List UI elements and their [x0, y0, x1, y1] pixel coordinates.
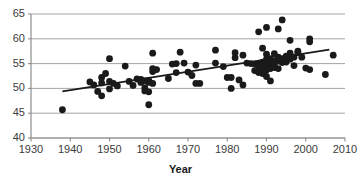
- scatter-chart: 656055504540 193019401950196019701980199…: [0, 0, 361, 184]
- x-tick-label-2010: 2010: [328, 144, 361, 155]
- data-point: [149, 80, 156, 87]
- data-point: [59, 106, 66, 113]
- x-tick-label-1970: 1970: [171, 144, 205, 155]
- data-point: [153, 66, 160, 73]
- data-point: [240, 82, 247, 89]
- data-point: [177, 49, 184, 56]
- gridlines: [31, 14, 345, 138]
- data-point: [306, 38, 313, 45]
- data-point: [165, 75, 172, 82]
- data-point: [173, 60, 180, 67]
- data-point: [106, 86, 113, 93]
- data-point: [196, 80, 203, 87]
- y-tick-label-40: 40: [3, 132, 25, 143]
- x-tick-label-1940: 1940: [53, 144, 87, 155]
- x-tick-label-1960: 1960: [132, 144, 166, 155]
- data-point: [192, 62, 199, 69]
- data-point: [102, 70, 109, 77]
- data-point: [259, 45, 266, 52]
- data-points: [59, 17, 337, 114]
- data-point: [240, 52, 247, 59]
- data-point: [145, 101, 152, 108]
- data-point: [122, 63, 129, 70]
- x-tick-label-2000: 2000: [289, 144, 323, 155]
- plot-canvas: [0, 0, 361, 184]
- data-point: [145, 88, 152, 95]
- data-point: [189, 72, 196, 79]
- data-point: [106, 55, 113, 62]
- y-tick-label-55: 55: [3, 58, 25, 69]
- y-tick-label-50: 50: [3, 82, 25, 93]
- data-point: [228, 85, 235, 92]
- data-point: [228, 74, 235, 81]
- data-point: [267, 78, 274, 85]
- data-point: [291, 62, 298, 69]
- data-point: [181, 60, 188, 67]
- axis-ticks: [28, 14, 345, 142]
- x-tick-label-1990: 1990: [250, 144, 284, 155]
- data-point: [330, 52, 337, 59]
- y-tick-label-60: 60: [3, 33, 25, 44]
- data-point: [263, 24, 270, 31]
- data-point: [232, 54, 239, 61]
- data-point: [279, 17, 286, 24]
- data-point: [255, 28, 262, 35]
- y-tick-label-65: 65: [3, 8, 25, 19]
- data-point: [130, 82, 137, 89]
- x-tick-label-1950: 1950: [93, 144, 127, 155]
- data-point: [275, 65, 282, 72]
- data-point: [212, 60, 219, 67]
- data-point: [98, 92, 105, 99]
- data-point: [149, 50, 156, 57]
- x-tick-label-1930: 1930: [14, 144, 48, 155]
- data-point: [287, 37, 294, 44]
- data-point: [306, 66, 313, 73]
- y-tick-label-45: 45: [3, 107, 25, 118]
- data-point: [212, 47, 219, 54]
- axis-lines: [31, 14, 345, 138]
- x-axis-title: Year: [0, 163, 361, 175]
- data-point: [322, 71, 329, 78]
- x-tick-label-1980: 1980: [210, 144, 244, 155]
- data-point: [275, 25, 282, 32]
